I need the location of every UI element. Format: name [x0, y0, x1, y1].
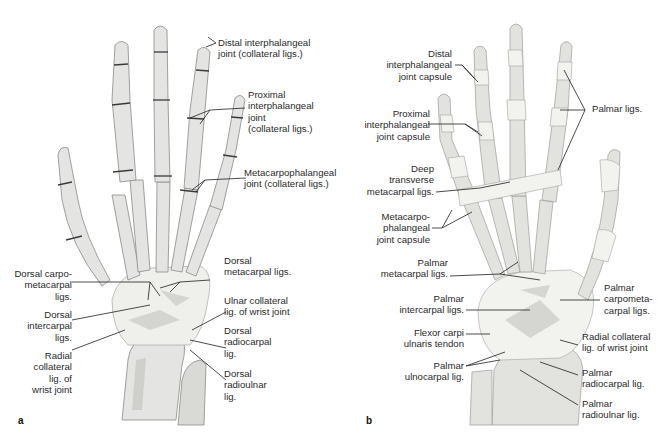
label-proximal-ip-joint-capsule: Proximal interphalangeal joint capsule: [350, 108, 430, 142]
label-palmar-ulnocarpal-lig: Palmar ulnocarpal lig.: [380, 360, 464, 383]
label-dorsal-radiocarpal-lig: Dorsal radiocarpal lig.: [224, 325, 271, 359]
label-mcp-joint-capsule: Metacarpo- phalangeal joint capsule: [350, 211, 430, 245]
panel-letter-a: a: [18, 415, 24, 426]
label-radial-collateral-lig-wrist: Radial collateral lig. of wrist joint: [582, 331, 650, 354]
panel-letter-b: b: [366, 415, 372, 426]
label-palmar-metacarpal-ligs: Palmar metacarpal ligs.: [350, 257, 448, 280]
label-metacarpophalangeal-joint: Metacarpophalangeal joint (collateral li…: [244, 167, 336, 190]
label-flexor-carpi-ulnaris-tendon: Flexor carpi ulnaris tendon: [380, 327, 464, 350]
hand-illustrations: [0, 0, 667, 439]
label-palmar-intercarpal-ligs: Palmar intercarpal ligs.: [370, 293, 464, 316]
label-palmar-radioulnar-lig: Palmar radioulnar lig.: [582, 398, 640, 421]
label-palmar-radiocarpal-lig: Palmar radiocarpal lig.: [582, 367, 644, 390]
hand-ligaments-figure: Distal interphalangeal joint (collateral…: [0, 0, 667, 439]
label-deep-transverse-metacarpal-ligs: Deep transverse metacarpal ligs.: [350, 163, 434, 197]
label-radial-collateral-lig: Radial collateral lig. of wrist joint: [4, 350, 72, 396]
label-palmar-carpometacarpal-ligs: Palmar carpometa- carpal ligs.: [604, 282, 653, 316]
label-proximal-interphalangeal-joint: Proximal interphalangeal joint (collater…: [248, 89, 314, 135]
dorsal-hand-illustration: [58, 26, 246, 425]
label-distal-ip-joint-capsule: Distal interphalangeal joint capsule: [370, 48, 452, 82]
label-distal-interphalangeal-joint: Distal interphalangeal joint (collateral…: [218, 37, 310, 60]
label-dorsal-carpometacarpal-ligs: Dorsal carpo- metacarpal ligs.: [4, 268, 72, 302]
label-dorsal-metacarpal-ligs: Dorsal metacarpal ligs.: [224, 255, 291, 278]
label-dorsal-radioulnar-lig: Dorsal radioulnar lig.: [224, 368, 267, 402]
label-dorsal-intercarpal-ligs: Dorsal intercarpal ligs.: [4, 309, 72, 343]
label-ulnar-collateral-lig: Ulnar collateral lig. of wrist joint: [224, 295, 290, 318]
label-palmar-ligs: Palmar ligs.: [592, 103, 642, 114]
